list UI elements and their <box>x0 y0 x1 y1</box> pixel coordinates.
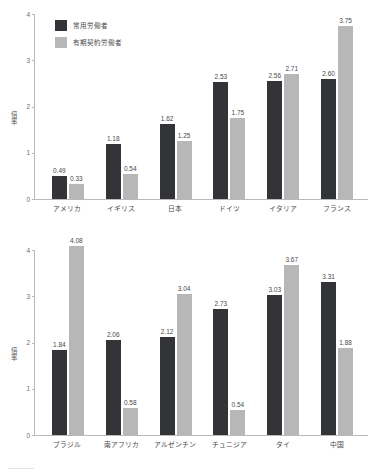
bar <box>177 294 192 435</box>
legend-label-regular: 常用労働者 <box>73 22 108 30</box>
x-axis-category-label: ブラジル <box>40 438 94 454</box>
bar-column: 3.03 <box>267 250 282 435</box>
y-axis-tick-mark <box>32 199 35 200</box>
bar-column: 2.71 <box>284 14 299 199</box>
bar-column: 1.84 <box>52 250 67 435</box>
x-axis-category-label: アメリカ <box>40 202 94 218</box>
bar <box>123 408 138 435</box>
bar <box>213 309 228 435</box>
x-axis-category-label: チュニジア <box>202 438 256 454</box>
bar <box>177 141 192 199</box>
plot-area-chart-2: 01234 1.844.082.060.582.123.042.730.543.… <box>34 250 368 436</box>
bar-value-label: 0.33 <box>70 175 83 183</box>
bar-column: 2.06 <box>106 250 121 435</box>
bar <box>52 176 67 199</box>
bar <box>160 124 175 199</box>
bar-value-label: 2.71 <box>285 65 298 73</box>
bar-value-label: 1.18 <box>107 135 120 143</box>
bar <box>321 282 336 435</box>
bar <box>52 350 67 435</box>
bar-value-label: 3.67 <box>285 256 298 264</box>
bar-value-label: 2.06 <box>107 331 120 339</box>
y-axis-tick-label: 2 <box>26 339 30 346</box>
y-axis-tick-label: 4 <box>26 247 30 254</box>
x-axis-category-label: タイ <box>256 438 310 454</box>
bar-group: 2.562.71 <box>256 14 310 199</box>
bar-value-label: 0.54 <box>232 401 245 409</box>
chart-page: 倍率 01234 0.490.331.180.541.621.252.531.7… <box>0 0 374 472</box>
y-axis-title-chart-1: 倍率 <box>8 111 18 125</box>
bar-value-label: 0.54 <box>124 165 137 173</box>
bar <box>321 79 336 199</box>
bar-group: 2.060.58 <box>95 250 149 435</box>
bar-value-label: 0.58 <box>124 399 137 407</box>
bar-value-label: 2.12 <box>161 328 174 336</box>
bar-column: 2.12 <box>160 250 175 435</box>
bar <box>230 410 245 435</box>
bar-column: 2.53 <box>213 14 228 199</box>
bar-value-label: 3.31 <box>322 273 335 281</box>
bar-column: 3.67 <box>284 250 299 435</box>
y-axis-tick-label: 0 <box>26 432 30 439</box>
bar-group: 2.603.75 <box>310 14 364 199</box>
bar <box>69 246 84 435</box>
x-axis-category-label: フランス <box>310 202 364 218</box>
bar-value-label: 4.08 <box>70 237 83 245</box>
bar-value-label: 1.88 <box>339 339 352 347</box>
bar-column: 3.31 <box>321 250 336 435</box>
bar <box>338 26 353 199</box>
legend-item-fixed-term: 有期契約労働者 <box>55 37 122 48</box>
legend-label-fixed-term: 有期契約労働者 <box>73 39 122 47</box>
bar-value-label: 2.73 <box>215 300 228 308</box>
y-axis-tick-label: 3 <box>26 57 30 64</box>
bar-value-label: 1.62 <box>161 115 174 123</box>
bar-value-label: 2.56 <box>268 72 281 80</box>
bar-group: 3.311.88 <box>310 250 364 435</box>
bar-group: 2.531.75 <box>202 14 256 199</box>
bar-group: 2.730.54 <box>202 250 256 435</box>
bar-column: 2.73 <box>213 250 228 435</box>
bar-group: 3.033.67 <box>256 250 310 435</box>
bar-column: 2.56 <box>267 14 282 199</box>
bar-value-label: 3.03 <box>268 286 281 294</box>
x-axis-category-label: イギリス <box>94 202 148 218</box>
x-axis-category-label: 中国 <box>310 438 364 454</box>
bar <box>106 144 121 199</box>
chart-legend: 常用労働者 有期契約労働者 <box>55 20 122 48</box>
bar-column: 1.25 <box>177 14 192 199</box>
bar-value-label: 2.60 <box>322 70 335 78</box>
bar-value-label: 1.84 <box>53 341 66 349</box>
bar-groups-chart-2: 1.844.082.060.582.123.042.730.543.033.67… <box>35 250 368 435</box>
bar-value-label: 2.53 <box>215 73 228 81</box>
x-axis-category-label: イタリア <box>256 202 310 218</box>
bar-value-label: 1.25 <box>178 132 191 140</box>
legend-swatch-icon-fixed-term <box>55 37 67 48</box>
bar-value-label: 3.04 <box>178 285 191 293</box>
bar-column: 0.54 <box>123 14 138 199</box>
bar-value-label: 3.75 <box>339 17 352 25</box>
y-axis-tick-mark <box>32 435 35 436</box>
y-axis-tick-label: 1 <box>26 149 30 156</box>
y-axis-tick-label: 3 <box>26 293 30 300</box>
y-axis-tick-label: 4 <box>26 11 30 18</box>
bar <box>338 348 353 435</box>
bar-column: 4.08 <box>69 250 84 435</box>
bar <box>267 295 282 435</box>
x-axis-category-label: 南アフリカ <box>94 438 148 454</box>
bar-column: 3.75 <box>338 14 353 199</box>
bar <box>160 337 175 435</box>
legend-item-regular: 常用労働者 <box>55 20 122 31</box>
bar <box>106 340 121 435</box>
bar <box>230 118 245 199</box>
bar-column: 3.04 <box>177 250 192 435</box>
bar <box>284 74 299 199</box>
y-axis-tick-label: 0 <box>26 196 30 203</box>
bar-value-label: 0.49 <box>53 167 66 175</box>
bar-column: 1.62 <box>160 14 175 199</box>
chart-developed-countries: 倍率 01234 0.490.331.180.541.621.252.531.7… <box>0 0 374 236</box>
x-axis-category-label: アルゼンチン <box>148 438 202 454</box>
bar-group: 1.621.25 <box>149 14 203 199</box>
bar-column: 0.54 <box>230 250 245 435</box>
x-axis-labels-chart-1: アメリカイギリス日本ドイツイタリアフランス <box>34 202 368 218</box>
bar <box>284 265 299 435</box>
